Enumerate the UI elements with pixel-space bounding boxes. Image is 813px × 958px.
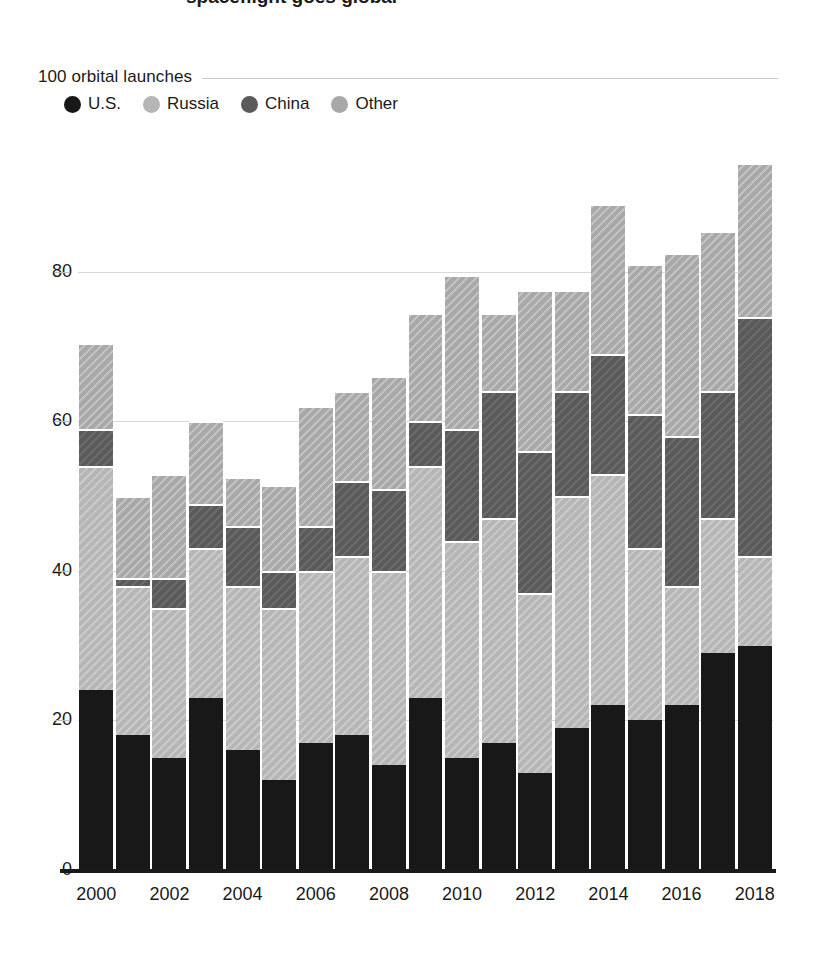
bar-segment-china [262, 571, 296, 608]
chart-page: spaceflight goes global 100 orbital laun… [0, 0, 813, 958]
bar-segment-other [591, 204, 625, 354]
bar-2011[interactable] [482, 313, 516, 870]
bar-segment-china [701, 391, 735, 518]
bar-segment-russia [262, 608, 296, 780]
bar-segment-other [299, 406, 333, 526]
bar-segment-other [152, 474, 186, 579]
bar-segment-russia [335, 556, 369, 736]
bar-segment-russia [445, 541, 479, 758]
bar-segment-russia [591, 474, 625, 706]
legend-label: U.S. [88, 94, 121, 114]
bar-segment-russia [189, 548, 223, 698]
bar-2010[interactable] [445, 275, 479, 870]
bar-segment-us [628, 720, 662, 870]
bar-segment-other [372, 376, 406, 488]
legend-item-china[interactable]: China [241, 94, 309, 114]
bar-segment-us [299, 743, 333, 870]
bar-2002[interactable] [152, 474, 186, 870]
bar-segment-other [555, 290, 589, 391]
bar-segment-us [262, 780, 296, 870]
bar-segment-china [152, 578, 186, 608]
bar-2006[interactable] [299, 406, 333, 870]
top-gridline-rule [202, 78, 778, 79]
bar-segment-russia [226, 586, 260, 751]
bar-2001[interactable] [116, 496, 150, 870]
legend-label: Other [355, 94, 398, 114]
bar-2009[interactable] [409, 313, 443, 870]
bar-2014[interactable] [591, 204, 625, 870]
bar-segment-china [628, 414, 662, 549]
bar-2003[interactable] [189, 421, 223, 870]
bar-2012[interactable] [518, 290, 552, 870]
bar-segment-us [79, 690, 113, 870]
bar-segment-russia [482, 518, 516, 742]
bar-segment-us [701, 653, 735, 870]
bar-2018[interactable] [738, 163, 772, 870]
bar-segment-china [445, 429, 479, 541]
bar-2008[interactable] [372, 376, 406, 870]
bar-segment-china [591, 354, 625, 474]
x-tick-label: 2002 [149, 884, 189, 905]
bar-segment-china [372, 489, 406, 571]
bar-segment-other [409, 313, 443, 421]
x-tick-label: 2010 [442, 884, 482, 905]
y-tick-dash [54, 720, 70, 721]
bar-2007[interactable] [335, 391, 369, 870]
legend-item-us[interactable]: U.S. [64, 94, 121, 114]
bar-segment-us [738, 646, 772, 870]
x-tick-label: 2006 [296, 884, 336, 905]
legend-item-russia[interactable]: Russia [143, 94, 219, 114]
bar-segment-other [79, 343, 113, 429]
bar-segment-china [665, 436, 699, 586]
bar-segment-other [189, 421, 223, 503]
bar-2000[interactable] [79, 343, 113, 870]
x-tick-label: 2000 [76, 884, 116, 905]
legend-swatch-russia-icon [143, 96, 160, 113]
bar-segment-china [299, 526, 333, 571]
bar-segment-us [482, 743, 516, 870]
bar-segment-russia [738, 556, 772, 646]
bar-segment-other [226, 477, 260, 526]
bar-segment-china [226, 526, 260, 586]
x-axis-baseline [60, 869, 776, 873]
legend-item-other[interactable]: Other [331, 94, 398, 114]
bar-segment-other [335, 391, 369, 481]
bar-segment-other [665, 253, 699, 436]
bar-2005[interactable] [262, 485, 296, 870]
bar-segment-us [372, 765, 406, 870]
bar-segment-other [445, 275, 479, 428]
y-tick-dash [54, 421, 70, 422]
chart-legend: U.S.RussiaChinaOther [64, 94, 420, 114]
bar-segment-russia [518, 593, 552, 773]
bar-segment-russia [665, 586, 699, 706]
bar-segment-other [116, 496, 150, 578]
bar-segment-china [555, 391, 589, 496]
x-tick-label: 2008 [369, 884, 409, 905]
bar-2016[interactable] [665, 253, 699, 870]
bar-segment-us [445, 758, 479, 870]
bar-segment-china [116, 578, 150, 585]
x-tick-label: 2014 [588, 884, 628, 905]
legend-label: Russia [167, 94, 219, 114]
bar-segment-other [701, 231, 735, 392]
bar-segment-us [409, 698, 443, 870]
bar-segment-russia [628, 548, 662, 720]
clipped-title-strip: spaceflight goes global [0, 0, 813, 18]
bar-segment-china [189, 504, 223, 549]
bar-segment-china [79, 429, 113, 466]
bar-2015[interactable] [628, 264, 662, 870]
bar-2017[interactable] [701, 231, 735, 871]
bar-segment-us [226, 750, 260, 870]
y-axis-labels: 020406080 [0, 122, 72, 870]
bar-2013[interactable] [555, 290, 589, 870]
bar-segment-other [262, 485, 296, 571]
bar-2004[interactable] [226, 477, 260, 870]
legend-label: China [265, 94, 309, 114]
x-tick-label: 2004 [223, 884, 263, 905]
bar-segment-russia [152, 608, 186, 758]
legend-swatch-us-icon [64, 96, 81, 113]
bar-segment-other [482, 313, 516, 392]
bar-segment-other [518, 290, 552, 451]
chart-top-axis-header: 100 orbital launches [38, 65, 778, 89]
bar-segment-other [738, 163, 772, 316]
